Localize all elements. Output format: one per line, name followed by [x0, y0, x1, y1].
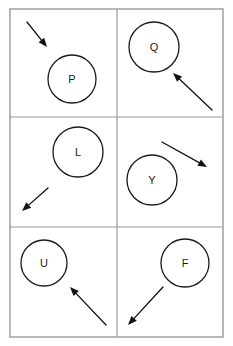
cell-p: P [27, 22, 96, 103]
cell-f: F [128, 239, 209, 325]
grid-lines [10, 9, 223, 337]
circle-label-u: U [40, 257, 48, 269]
arrow-shaft-1 [27, 22, 43, 42]
arrow-shaft-2 [178, 78, 212, 110]
cell-u: U [21, 240, 106, 325]
arrow-head-4 [197, 159, 207, 167]
circle-label-l: L [75, 146, 81, 158]
cell-y: Y [127, 142, 207, 205]
arrow-shaft-5 [75, 292, 106, 325]
arrow-shaft-6 [133, 287, 163, 320]
cell-q: Q [129, 22, 212, 110]
arrow-head-1 [39, 38, 47, 47]
cell-l: L [22, 127, 103, 211]
figure-canvas: PQLYUF [0, 0, 233, 346]
circle-label-f: F [182, 257, 189, 269]
circle-label-y: Y [148, 174, 156, 186]
arrow-shaft-3 [27, 188, 48, 206]
circle-label-p: P [68, 73, 75, 85]
diagram-svg: PQLYUF [0, 0, 233, 346]
circle-label-q: Q [150, 41, 159, 53]
